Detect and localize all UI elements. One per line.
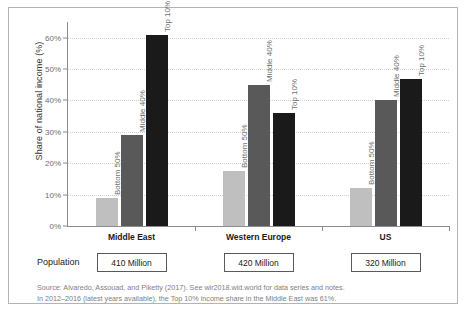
- plot-area: Share of national income (%) 0%10%20%30%…: [9, 8, 459, 248]
- y-axis-tick-labels: 0%10%20%30%40%50%60%: [31, 22, 61, 226]
- bar-group: Bottom 50%Middle 40%Top 10%: [68, 22, 195, 226]
- y-tick-label: 40%: [45, 96, 61, 105]
- bar: Top 10%: [273, 113, 295, 226]
- bar-label: Top 10%: [290, 79, 299, 113]
- bar: Bottom 50%: [350, 188, 372, 226]
- bar: Middle 40%: [248, 85, 270, 226]
- bar-group: Bottom 50%Middle 40%Top 10%: [322, 22, 449, 226]
- population-value-box: 320 Million: [351, 253, 421, 272]
- x-axis-tick: [195, 226, 196, 231]
- source-note-line-2: In 2012–2016 (latest years available), t…: [37, 293, 447, 304]
- population-value-box: 420 Million: [224, 253, 294, 272]
- y-tick-label: 50%: [45, 65, 61, 74]
- x-axis-group-label: Middle East: [68, 232, 195, 242]
- bar-label: Top 10%: [163, 0, 172, 34]
- population-label: Population: [37, 257, 80, 267]
- bar-group: Bottom 50%Middle 40%Top 10%: [195, 22, 322, 226]
- bar: Bottom 50%: [96, 198, 118, 226]
- bar-groups: Bottom 50%Middle 40%Top 10%Bottom 50%Mid…: [68, 22, 449, 226]
- source-notes: Source: Alvaredo, Assouad, and Piketty (…: [37, 282, 447, 304]
- y-tick-label: 0%: [49, 222, 61, 231]
- bar-label: Top 10%: [417, 44, 426, 78]
- x-axis-tick: [449, 226, 450, 231]
- y-tick-label: 60%: [45, 33, 61, 42]
- source-note-line-1: Source: Alvaredo, Assouad, and Piketty (…: [37, 282, 447, 293]
- bar-label: Middle 40%: [265, 40, 274, 85]
- bar: Bottom 50%: [223, 171, 245, 226]
- population-value-box: 410 Million: [97, 253, 167, 272]
- x-axis-tick: [322, 226, 323, 231]
- bar: Middle 40%: [375, 100, 397, 226]
- x-axis-group-label: Western Europe: [195, 232, 322, 242]
- y-tick-label: 20%: [45, 159, 61, 168]
- bar: Top 10%: [400, 79, 422, 227]
- chart-frame: Share of national income (%) 0%10%20%30%…: [8, 7, 458, 304]
- bar: Top 10%: [146, 35, 168, 226]
- bar: Middle 40%: [121, 135, 143, 226]
- x-axis-group-label: US: [322, 232, 449, 242]
- x-axis-line: [67, 226, 449, 227]
- population-row: Population 410 Million420 Million320 Mil…: [9, 253, 459, 277]
- y-tick-label: 30%: [45, 127, 61, 136]
- y-tick-label: 10%: [45, 190, 61, 199]
